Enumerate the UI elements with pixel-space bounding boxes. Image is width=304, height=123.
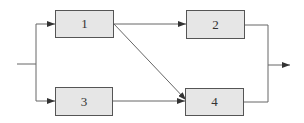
block-2: 2 <box>186 10 245 39</box>
connections-layer <box>0 0 304 123</box>
block-2-label: 2 <box>212 17 219 33</box>
edge-2-output <box>244 25 268 102</box>
edge-1-4 <box>114 24 186 100</box>
block-3: 3 <box>55 87 113 116</box>
block-3-label: 3 <box>81 94 88 110</box>
block-4: 4 <box>185 88 244 116</box>
block-4-label: 4 <box>211 94 218 110</box>
block-1: 1 <box>55 10 114 38</box>
block-1-label: 1 <box>81 16 88 32</box>
